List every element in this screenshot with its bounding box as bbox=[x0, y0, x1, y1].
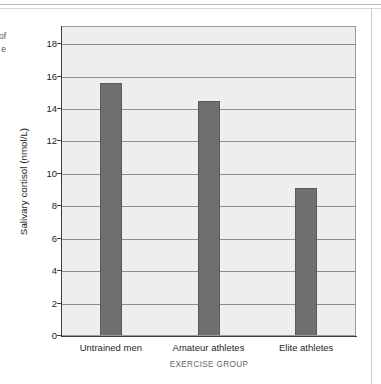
y-axis-tick-label: 2 bbox=[5, 297, 57, 308]
gridline bbox=[62, 77, 355, 78]
y-axis-tick-label: 12 bbox=[5, 135, 57, 146]
category-label: Untrained men bbox=[80, 342, 142, 353]
figure-bar-chart: 024681012141618 Salivary cortisol (nmol/… bbox=[0, 8, 371, 384]
y-axis-line bbox=[61, 26, 62, 337]
y-axis-tick-label: 0 bbox=[5, 330, 57, 341]
y-axis-tick-label: 16 bbox=[5, 70, 57, 81]
y-axis-tick-mark bbox=[57, 270, 61, 271]
category-label: Elite athletes bbox=[279, 342, 333, 353]
y-axis-tick-mark bbox=[57, 335, 61, 336]
y-axis-tick-mark bbox=[57, 238, 61, 239]
y-axis-tick-label: 6 bbox=[5, 232, 57, 243]
bar bbox=[100, 83, 122, 335]
plot-inner bbox=[62, 27, 355, 335]
y-axis-tick-mark bbox=[57, 43, 61, 44]
y-axis-tick-mark bbox=[57, 108, 61, 109]
y-axis-title: Salivary cortisol (nmol/L) bbox=[18, 72, 29, 292]
bar bbox=[198, 101, 220, 335]
x-axis-line bbox=[61, 336, 357, 337]
x-axis-title: EXERCISE GROUP bbox=[61, 360, 357, 369]
y-axis-tick-mark bbox=[57, 76, 61, 77]
page-rule-top bbox=[0, 4, 381, 5]
plot-area bbox=[61, 26, 356, 336]
y-axis-tick-mark bbox=[57, 173, 61, 174]
y-axis-tick-label: 4 bbox=[5, 265, 57, 276]
y-axis-tick-label: 8 bbox=[5, 200, 57, 211]
y-axis-tick-label: 10 bbox=[5, 167, 57, 178]
category-label: Amateur athletes bbox=[173, 342, 245, 353]
y-axis-tick-mark bbox=[57, 140, 61, 141]
y-axis-tick-mark bbox=[57, 205, 61, 206]
y-axis-tick-label: 14 bbox=[5, 103, 57, 114]
y-axis-tick-mark bbox=[57, 303, 61, 304]
bar bbox=[295, 188, 317, 335]
y-axis-tick-label: 18 bbox=[5, 38, 57, 49]
page-rule-right bbox=[371, 8, 372, 384]
x-axis-category-labels: Untrained menAmateur athletesElite athle… bbox=[61, 342, 357, 358]
gridline bbox=[62, 44, 355, 45]
y-axis-tick-labels: 024681012141618 bbox=[0, 8, 57, 384]
